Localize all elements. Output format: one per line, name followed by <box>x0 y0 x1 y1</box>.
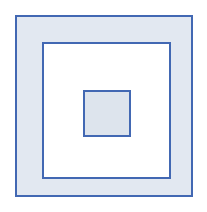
middle-square <box>42 42 171 179</box>
inner-square <box>83 90 131 137</box>
outer-square <box>15 15 193 197</box>
figure-canvas <box>0 0 207 212</box>
